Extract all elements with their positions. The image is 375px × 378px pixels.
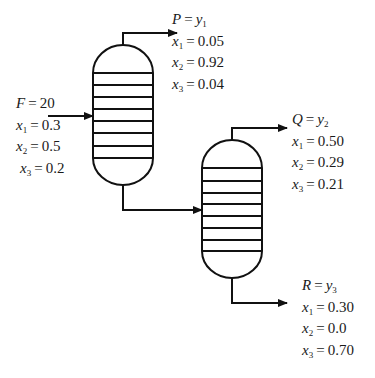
p-flow: P=y1 <box>172 11 224 33</box>
product-q-label: Q=y2 x1=0.50 x2=0.29 x3=0.21 <box>292 111 344 197</box>
product-p-label: P=y1 x1=0.05 x2=0.92 x3=0.04 <box>172 11 224 97</box>
product-p-arrow <box>123 33 177 45</box>
r-flow: R=y3 <box>302 277 354 299</box>
product-r-label: R=y3 x1=0.30 x2=0.0 x3=0.70 <box>302 277 354 363</box>
q-x2: x2=0.29 <box>292 154 344 176</box>
feed-x1: x1=0.3 <box>16 117 64 139</box>
r-x1: x1=0.30 <box>302 299 354 321</box>
p-x3: x3=0.04 <box>172 76 224 98</box>
feed-x3: x3=0.2 <box>16 160 64 182</box>
q-x3: x3=0.21 <box>292 176 344 198</box>
r-x2: x2=0.0 <box>302 320 354 342</box>
distillation-column-2 <box>202 140 262 278</box>
q-flow: Q=y2 <box>292 111 344 133</box>
feed-flow: F=20 <box>16 95 64 117</box>
p-x2: x2=0.92 <box>172 54 224 76</box>
feed-label: F=20 x1=0.3 x2=0.5 x3=0.2 <box>16 95 64 181</box>
p-x1: x1=0.05 <box>172 33 224 55</box>
r-x3: x3=0.70 <box>302 342 354 364</box>
product-r-arrow <box>232 278 287 303</box>
interconnect-arrow <box>123 185 202 210</box>
distillation-column-1 <box>93 45 153 185</box>
q-x1: x1=0.50 <box>292 133 344 155</box>
product-q-arrow <box>232 128 287 140</box>
feed-x2: x2=0.5 <box>16 138 64 160</box>
